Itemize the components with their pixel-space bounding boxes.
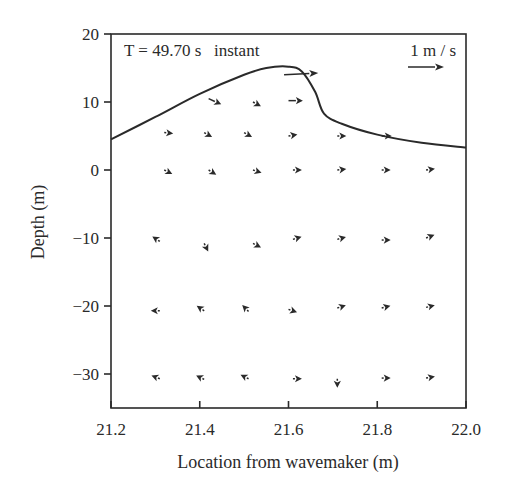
y-tick-label: −10 <box>72 229 99 248</box>
scale-arrow-icon <box>408 63 444 70</box>
y-tick-label: 0 <box>91 161 100 180</box>
y-tick-label: −20 <box>72 297 99 316</box>
x-tick-label: 21.4 <box>185 420 215 439</box>
axis-ticks: 21.221.421.621.822.020100−10−20−30 <box>72 25 480 439</box>
y-tick-label: −30 <box>72 365 99 384</box>
y-axis-title: Depth (m) <box>28 185 49 259</box>
x-axis-title: Location from wavemaker (m) <box>177 452 398 473</box>
x-tick-label: 21.6 <box>274 420 304 439</box>
x-tick-label: 21.2 <box>96 420 126 439</box>
velocity-vectors <box>151 70 435 388</box>
scale-label: 1 m / s <box>410 41 456 60</box>
time-annotation: T = 49.70 s instant <box>124 41 260 60</box>
quiver-chart: 21.221.421.621.822.020100−10−20−30 T = 4… <box>0 0 512 502</box>
y-tick-label: 10 <box>82 93 99 112</box>
plot-frame <box>111 34 466 408</box>
x-tick-label: 21.8 <box>362 420 392 439</box>
x-tick-label: 22.0 <box>451 420 481 439</box>
y-tick-label: 20 <box>82 25 99 44</box>
